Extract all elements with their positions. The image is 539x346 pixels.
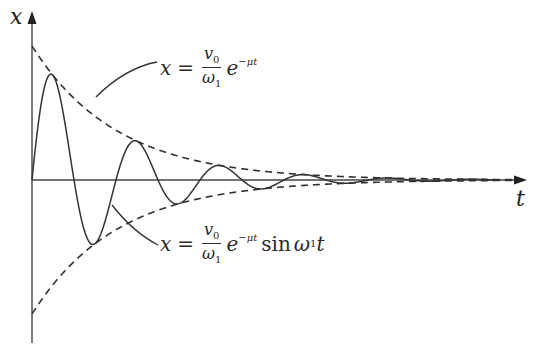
- vertical-axis-arrow-icon: [28, 11, 37, 24]
- envelope-fraction: v0 ω1: [202, 46, 221, 89]
- damped-oscillation-curve: [32, 74, 500, 244]
- motion-exp-base: e: [226, 232, 238, 256]
- y-axis-label: x: [10, 4, 22, 29]
- motion-leader-line: [112, 205, 158, 245]
- x-axis-label: t: [516, 186, 525, 211]
- motion-denominator: ω: [202, 244, 215, 263]
- envelope-denominator-sub: 1: [215, 78, 221, 89]
- motion-numerator: v: [204, 220, 213, 239]
- damped-oscillation-diagram: [0, 0, 539, 346]
- envelope-numerator-sub: 0: [213, 54, 219, 65]
- envelope-equation: x = v0 ω1 e−μt: [160, 46, 257, 89]
- envelope-leader-line: [96, 62, 157, 97]
- motion-exponent: −μt: [238, 232, 257, 243]
- envelope-equals: =: [177, 56, 194, 80]
- motion-arg: ω: [294, 232, 310, 256]
- envelope-exp-base: e: [226, 56, 238, 80]
- motion-equals: =: [177, 232, 194, 256]
- motion-lhs: x: [160, 232, 171, 256]
- envelope-lhs: x: [160, 56, 171, 80]
- upper-envelope-curve: [32, 46, 512, 180]
- motion-arg-var: t: [316, 232, 324, 256]
- motion-numerator-sub: 0: [213, 230, 219, 241]
- motion-equation: x = v0 ω1 e−μt sin ω1t: [160, 222, 325, 265]
- envelope-denominator: ω: [202, 68, 215, 87]
- envelope-exponent: −μt: [238, 56, 257, 67]
- envelope-numerator: v: [204, 44, 213, 63]
- motion-denominator-sub: 1: [215, 254, 221, 265]
- motion-func: sin: [261, 232, 291, 256]
- horizontal-axis-arrow-icon: [514, 176, 527, 185]
- motion-fraction: v0 ω1: [202, 222, 221, 265]
